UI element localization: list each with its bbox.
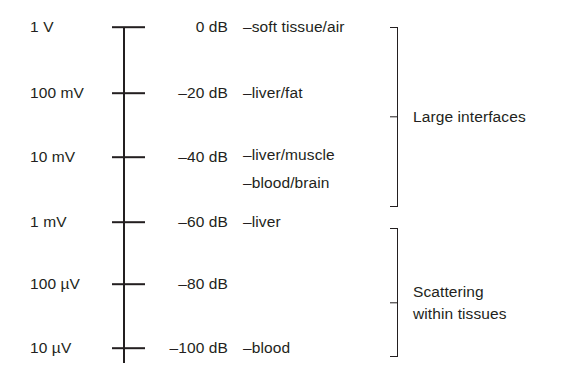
interface-label-blood-brain: –blood/brain <box>243 175 330 191</box>
decibel-label-0db: 0 dB <box>196 19 228 35</box>
group-label-scattering-line1: Scattering <box>413 281 507 303</box>
bracket-scattering-within-tissues <box>390 228 398 357</box>
group-label-large-interfaces: Large interfaces <box>413 106 526 128</box>
interface-label-liver-muscle: –liver/muscle <box>243 147 335 163</box>
axis-tick-0db <box>112 26 145 28</box>
decibel-label-40db: –40 dB <box>178 149 228 165</box>
axis-tick-80db <box>112 283 145 285</box>
voltage-label-100uv: 100 µV <box>30 276 80 292</box>
axis-tick-100db <box>112 347 145 349</box>
group-label-large-interfaces-line1: Large interfaces <box>413 106 526 128</box>
group-label-scattering-within-tissues: Scattering within tissues <box>413 281 507 325</box>
decibel-label-80db: –80 dB <box>178 276 228 292</box>
decibel-label-60db: –60 dB <box>178 214 228 230</box>
axis-tick-60db <box>112 221 145 223</box>
voltage-label-10mv: 10 mV <box>30 149 75 165</box>
voltage-label-10uv: 10 µV <box>30 340 71 356</box>
voltage-label-1mv: 1 mV <box>30 214 67 230</box>
interface-label-blood: –blood <box>243 340 290 356</box>
bracket-tick-large-interfaces <box>390 116 398 117</box>
scale-axis-line <box>123 27 125 363</box>
decibel-label-100db: –100 dB <box>170 340 228 356</box>
amplitude-db-scale-figure: 1 V 100 mV 10 mV 1 mV 100 µV 10 µV 0 dB … <box>0 0 576 384</box>
axis-tick-40db <box>112 156 145 158</box>
interface-label-soft-tissue-air: –soft tissue/air <box>243 19 345 35</box>
interface-label-liver-fat: –liver/fat <box>243 85 303 101</box>
decibel-label-20db: –20 dB <box>178 85 228 101</box>
bracket-tick-scattering-within-tissues <box>390 302 398 303</box>
group-label-scattering-line2: within tissues <box>413 303 507 325</box>
voltage-label-100mv: 100 mV <box>30 85 84 101</box>
interface-label-liver: –liver <box>243 214 281 230</box>
axis-tick-20db <box>112 92 145 94</box>
voltage-label-1v: 1 V <box>30 19 54 35</box>
